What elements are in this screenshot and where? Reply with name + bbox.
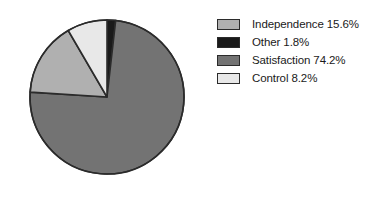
chart-legend: Independence 15.6% Other 1.8% Satisfacti… [217, 15, 377, 87]
legend-label-independence: Independence 15.6% [252, 18, 359, 30]
legend-item-control[interactable]: Control 8.2% [217, 69, 377, 87]
legend-item-other[interactable]: Other 1.8% [217, 33, 377, 51]
legend-swatch-independence [217, 19, 240, 30]
legend-swatch-control [217, 73, 240, 84]
pie-chart-figure: Independence 15.6% Other 1.8% Satisfacti… [0, 0, 380, 203]
legend-item-satisfaction[interactable]: Satisfaction 74.2% [217, 51, 377, 69]
pie-svg [0, 0, 205, 203]
legend-swatch-satisfaction [217, 55, 240, 66]
legend-label-control: Control 8.2% [252, 72, 317, 84]
pie-plot-area [0, 0, 205, 203]
legend-label-other: Other 1.8% [252, 36, 309, 48]
legend-label-satisfaction: Satisfaction 74.2% [252, 54, 345, 66]
legend-swatch-other [217, 37, 240, 48]
pie-slice-group [30, 20, 184, 174]
legend-item-independence[interactable]: Independence 15.6% [217, 15, 377, 33]
